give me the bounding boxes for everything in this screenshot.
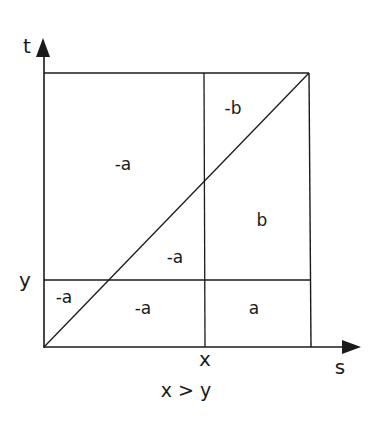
diagonal-line xyxy=(44,73,309,347)
region-label-middle: -a xyxy=(167,249,184,266)
t-axis-arrow-icon xyxy=(36,38,50,57)
region-label-upper-left: -a xyxy=(115,156,132,173)
t-axis-label: t xyxy=(23,36,31,56)
x-vertical-line xyxy=(204,73,205,347)
diagram-caption: x > y xyxy=(161,381,212,400)
region-label-bottom-right: a xyxy=(249,300,259,317)
region-label-bottom-left: -a xyxy=(56,289,73,306)
diagram-lines xyxy=(0,0,375,427)
diagram-canvas: t s y x -a -b b -a -a -a a x > y xyxy=(0,0,375,427)
region-label-right-below-diagonal: b xyxy=(257,212,268,229)
region-label-bottom-middle: -a xyxy=(135,300,152,317)
s-axis-arrow-icon xyxy=(342,340,361,354)
s-axis-label: s xyxy=(335,357,345,377)
region-label-upper-right: -b xyxy=(225,100,242,117)
square-right-edge xyxy=(309,73,311,347)
x-tick-label: x xyxy=(199,349,211,369)
y-tick-label: y xyxy=(19,270,31,290)
